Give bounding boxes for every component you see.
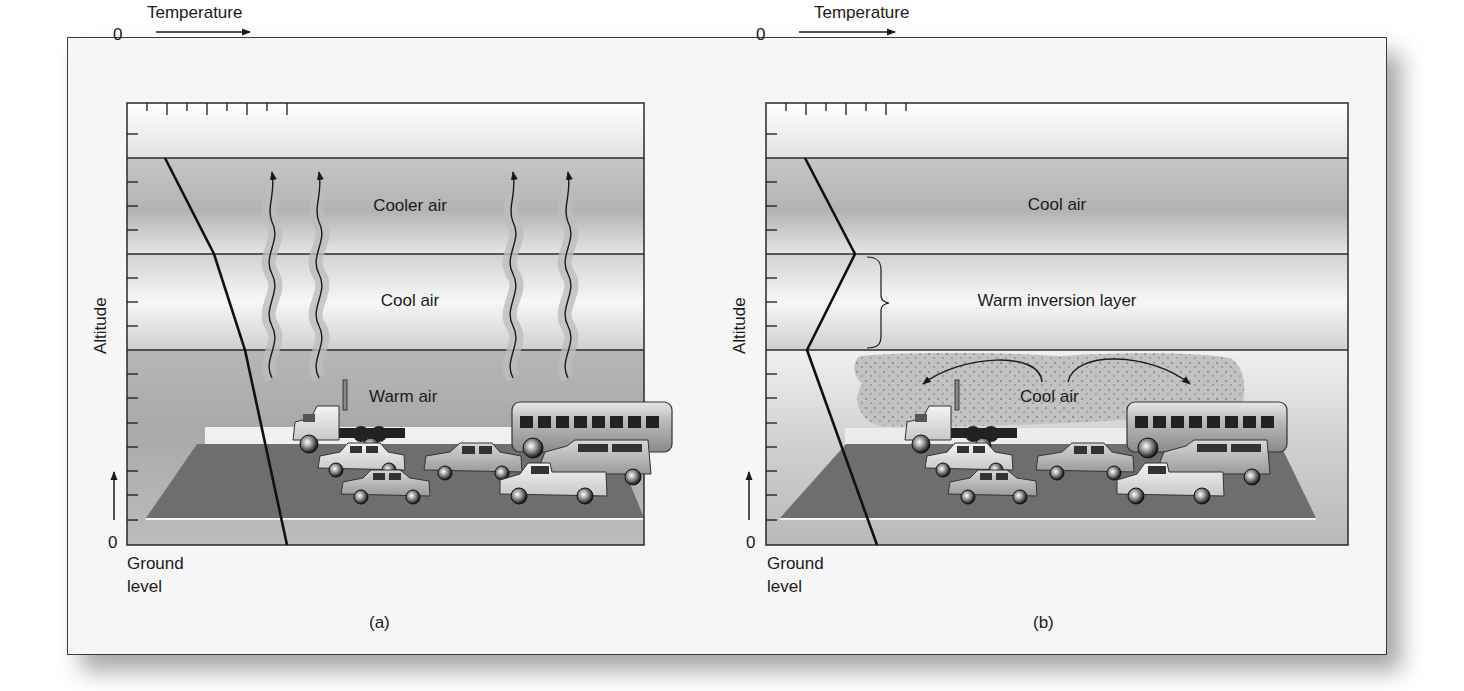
ground-level-label-b-2: level [767,577,802,596]
x-origin-label-a: 0 [113,25,122,44]
panel-caption-a: (a) [369,613,390,632]
x-origin-label-b: 0 [756,25,765,44]
layer-label-warm-air: Warm air [369,387,438,406]
layer-label-cool-air-a: Cool air [381,291,440,310]
layer-label-warm-inversion: Warm inversion layer [977,291,1136,310]
y-origin-label-b: 0 [746,533,755,552]
panel-caption-b: (b) [1033,613,1054,632]
temperature-axis-label-b: Temperature [814,3,909,22]
y-origin-label-a: 0 [108,533,117,552]
ground-level-label-a-2: level [127,577,162,596]
layer-label-cool-air-upper: Cool air [1028,195,1087,214]
ground-level-label-b: Ground [767,554,824,573]
temperature-axis-label-a: Temperature [147,3,242,22]
panel-a: Temperature 0 [91,3,672,632]
layer-label-cooler-air: Cooler air [373,196,447,215]
altitude-axis-label-b: Altitude [730,297,749,354]
panel-b: Temperature 0 [730,3,1348,632]
ground-level-label-a: Ground [127,554,184,573]
layer-label-cool-air-lower: Cool air [1020,387,1079,406]
altitude-axis-label-a: Altitude [91,297,110,354]
inversion-diagram: Temperature 0 [0,0,1464,691]
